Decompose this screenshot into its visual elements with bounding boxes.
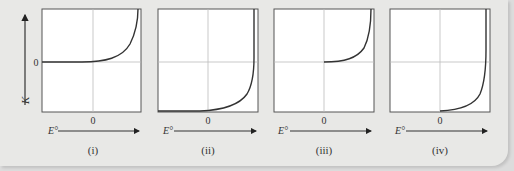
panel-label-iii: (iii) [316, 144, 333, 157]
panel-label-i: (i) [88, 144, 99, 157]
y-axis: K 0 [19, 15, 39, 105]
panel-label-ii: (ii) [201, 144, 215, 157]
x-zero-tick-iv: 0 [438, 115, 443, 126]
y-zero-tick: 0 [34, 57, 39, 68]
x-zero-tick-i: 0 [91, 115, 96, 126]
x-axis-label-i: E° [47, 125, 58, 136]
x-axis-label-iv: E° [394, 125, 405, 136]
x-axis-label-ii: E° [162, 125, 173, 136]
x-zero-tick-ii: 0 [206, 115, 211, 126]
panel-iii: 0 E° (iii) [274, 9, 374, 157]
panel-i: 0 E° (i) [42, 9, 141, 157]
panel-ii: 0 E° (ii) [158, 9, 258, 157]
x-axis-label-iii: E° [277, 125, 288, 136]
panel-label-iv: (iv) [432, 144, 448, 157]
y-axis-label: K [19, 96, 31, 105]
panel-iv: 0 E° (iv) [390, 9, 490, 157]
figure: K 0 0 E° (i) 0 E° (ii) 0 E° (iii) [0, 0, 514, 169]
x-zero-tick-iii: 0 [322, 115, 327, 126]
